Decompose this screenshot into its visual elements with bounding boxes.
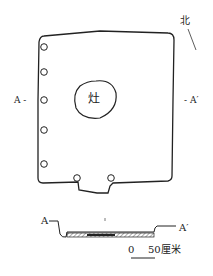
posthole: [41, 44, 48, 51]
hearth-label: 灶: [88, 93, 100, 105]
postholes: [41, 44, 115, 182]
posthole: [74, 175, 81, 182]
plan-section-label-right: - A′: [184, 96, 198, 105]
north-label: 北: [180, 16, 190, 26]
posthole: [41, 97, 48, 104]
house-outline: [38, 31, 174, 193]
scale-value: 50: [148, 245, 161, 255]
posthole: [41, 69, 48, 76]
north-arrow-line: [188, 29, 196, 50]
scale-zero: 0: [128, 245, 134, 255]
plan-section-label-left: A -: [14, 96, 26, 105]
scale-unit: 厘米: [161, 245, 181, 255]
posthole: [41, 161, 48, 168]
floor-layer-dark: [87, 234, 115, 236]
posthole: [41, 127, 48, 134]
site-plan-drawing: [0, 0, 213, 276]
section-label-end: A′: [179, 223, 189, 233]
section-label-start: A: [41, 216, 48, 226]
posthole: [108, 175, 115, 182]
